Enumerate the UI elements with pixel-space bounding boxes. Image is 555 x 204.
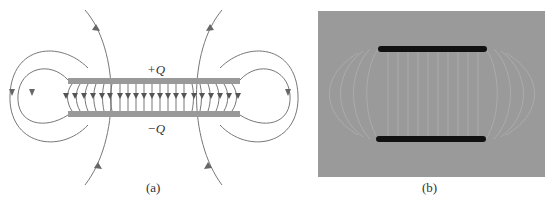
panel-b-field-photo: (b) [318, 11, 545, 177]
capacitor-field-lines-diagram [0, 0, 300, 204]
inner-arrows [63, 93, 241, 99]
panel-a-field-diagram: +Q −Q (a) [0, 0, 300, 204]
outer-field-lines [10, 10, 298, 185]
negative-charge-label: −Q [147, 121, 165, 137]
negative-plate [68, 111, 240, 117]
grass-seed-field-photo [318, 11, 545, 177]
positive-charge-label: +Q [147, 62, 165, 78]
positive-plate [68, 78, 240, 84]
caption-a: (a) [146, 180, 160, 196]
caption-b: (b) [422, 180, 437, 196]
outer-arrows [9, 24, 291, 169]
